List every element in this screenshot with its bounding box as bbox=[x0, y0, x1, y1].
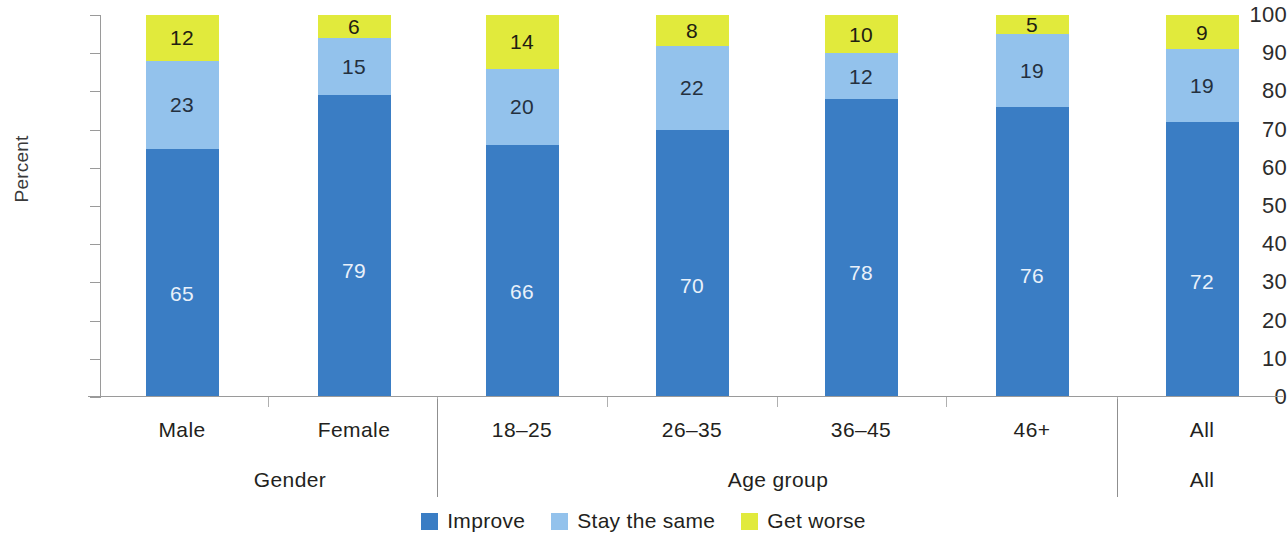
bar-segment-value: 79 bbox=[342, 260, 366, 281]
category-label: 46+ bbox=[1014, 418, 1051, 442]
x-axis-tick bbox=[268, 397, 269, 407]
legend-label: Improve bbox=[447, 509, 525, 533]
bar-segment-improve[interactable]: 65 bbox=[146, 149, 219, 397]
bar-segment-worse[interactable]: 8 bbox=[656, 15, 729, 46]
category-label: 18–25 bbox=[492, 418, 552, 442]
legend-swatch-icon bbox=[551, 513, 568, 530]
group-label: Gender bbox=[254, 468, 326, 492]
bar-segment-improve[interactable]: 78 bbox=[825, 99, 898, 397]
chart-legend: ImproveStay the sameGet worse bbox=[0, 509, 1287, 533]
category-label: 36–45 bbox=[831, 418, 891, 442]
y-axis-tick bbox=[90, 397, 101, 398]
bar-18-25[interactable]: 662014 bbox=[486, 15, 559, 397]
bar-segment-value: 22 bbox=[680, 77, 704, 98]
legend-label: Stay the same bbox=[577, 509, 715, 533]
bar-segment-value: 6 bbox=[348, 16, 360, 37]
x-axis-tick bbox=[777, 397, 778, 407]
bar-segment-improve[interactable]: 70 bbox=[656, 130, 729, 397]
category-label: All bbox=[1190, 418, 1215, 442]
bar-male[interactable]: 652312 bbox=[146, 15, 219, 397]
bar-segment-worse[interactable]: 10 bbox=[825, 15, 898, 53]
bar-segment-value: 12 bbox=[849, 66, 873, 87]
bar-segment-value: 76 bbox=[1020, 265, 1044, 286]
bar-36-45[interactable]: 781210 bbox=[825, 15, 898, 397]
bar-segment-improve[interactable]: 79 bbox=[318, 95, 391, 397]
bar-segment-value: 72 bbox=[1190, 271, 1214, 292]
bar-segment-improve[interactable]: 66 bbox=[486, 145, 559, 397]
legend-item[interactable]: Improve bbox=[421, 509, 525, 533]
group-separator bbox=[437, 399, 438, 497]
bar-segment-value: 15 bbox=[342, 56, 366, 77]
legend-item[interactable]: Stay the same bbox=[551, 509, 715, 533]
bar-segment-worse[interactable]: 14 bbox=[486, 15, 559, 68]
stacked-bar-chart: Percent 1009080706050403020100 652312791… bbox=[0, 0, 1287, 546]
bar-segment-stay[interactable]: 22 bbox=[656, 46, 729, 130]
category-label: Male bbox=[158, 418, 205, 442]
bar-segment-value: 8 bbox=[686, 20, 698, 41]
bar-26-35[interactable]: 70228 bbox=[656, 15, 729, 397]
bar-segment-worse[interactable]: 6 bbox=[318, 15, 391, 38]
x-axis-tick bbox=[946, 397, 947, 407]
bar-segment-value: 70 bbox=[680, 274, 704, 295]
bar-segment-stay[interactable]: 20 bbox=[486, 69, 559, 145]
x-axis-tick bbox=[607, 397, 608, 407]
legend-label: Get worse bbox=[767, 509, 865, 533]
plot-area: 65231279156662014702287812107619572199 bbox=[100, 15, 1287, 397]
bar-segment-improve[interactable]: 72 bbox=[1166, 122, 1239, 397]
bar-segment-stay[interactable]: 19 bbox=[996, 34, 1069, 107]
bar-segment-value: 23 bbox=[170, 94, 194, 115]
bar-segment-worse[interactable]: 5 bbox=[996, 15, 1069, 34]
bar-segment-stay[interactable]: 19 bbox=[1166, 49, 1239, 122]
legend-swatch-icon bbox=[421, 513, 438, 530]
bar-segment-value: 65 bbox=[170, 282, 194, 303]
bar-segment-value: 14 bbox=[510, 31, 534, 52]
y-axis-title: Percent bbox=[11, 119, 33, 219]
bar-segment-stay[interactable]: 23 bbox=[146, 61, 219, 149]
bar-segment-value: 10 bbox=[849, 24, 873, 45]
bar-segment-improve[interactable]: 76 bbox=[996, 107, 1069, 397]
bar-segment-stay[interactable]: 12 bbox=[825, 53, 898, 99]
bar-46+[interactable]: 76195 bbox=[996, 15, 1069, 397]
bar-segment-value: 12 bbox=[170, 27, 194, 48]
bar-segment-value: 78 bbox=[849, 261, 873, 282]
group-label: Age group bbox=[728, 468, 829, 492]
bar-segment-value: 66 bbox=[510, 281, 534, 302]
category-label: Female bbox=[318, 418, 390, 442]
bar-segment-value: 5 bbox=[1026, 14, 1038, 35]
bar-segment-worse[interactable]: 9 bbox=[1166, 15, 1239, 49]
group-label: All bbox=[1190, 468, 1215, 492]
bar-all[interactable]: 72199 bbox=[1166, 15, 1239, 397]
bar-segment-value: 9 bbox=[1196, 22, 1208, 43]
bar-segment-value: 19 bbox=[1190, 75, 1214, 96]
category-label: 26–35 bbox=[662, 418, 722, 442]
legend-item[interactable]: Get worse bbox=[741, 509, 865, 533]
bar-segment-worse[interactable]: 12 bbox=[146, 15, 219, 61]
bar-female[interactable]: 79156 bbox=[318, 15, 391, 397]
bar-segment-value: 20 bbox=[510, 96, 534, 117]
legend-swatch-icon bbox=[741, 513, 758, 530]
bar-segment-value: 19 bbox=[1020, 60, 1044, 81]
bar-segment-stay[interactable]: 15 bbox=[318, 38, 391, 95]
group-separator bbox=[1117, 399, 1118, 497]
